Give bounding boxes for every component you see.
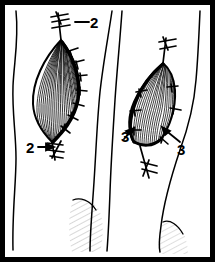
label-2-bottom: 2	[26, 139, 34, 156]
label-2-top: 2	[90, 14, 98, 31]
surgical-diagram-figure: 2 2 3 3	[0, 0, 215, 262]
label-3-right: 3	[177, 141, 185, 158]
diagram-canvas: 2 2 3 3	[0, 0, 215, 262]
label-3-left: 3	[121, 128, 129, 145]
